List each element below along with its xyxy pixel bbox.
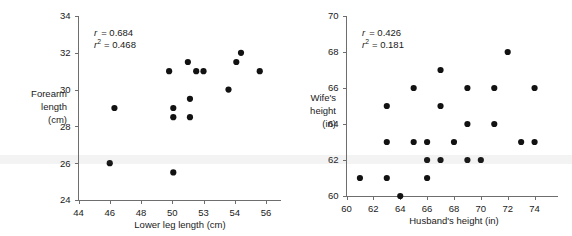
right-xlabel: Husband's height (in) — [409, 215, 498, 226]
left-x-tick-labels: 44464850535456 — [73, 207, 271, 218]
right-ytick-label: 60 — [328, 190, 339, 201]
panel-wife-vs-husband-height: 606264666870 6062646668707274 r= 0.426 r… — [286, 0, 572, 236]
data-point — [531, 139, 537, 145]
left-r-annotation: r= 0.684 — [94, 27, 133, 38]
data-point — [424, 139, 430, 145]
right-ylabel-line-3: (in) — [322, 118, 336, 129]
left-ylabel-line-2: length — [41, 101, 67, 112]
right-r2-annotation: r2= 0.181 — [362, 38, 404, 50]
data-point — [384, 175, 390, 181]
data-point — [111, 105, 117, 111]
data-point — [200, 68, 206, 74]
right-xtick-label: 62 — [368, 203, 379, 214]
right-ytick-label: 68 — [328, 46, 339, 57]
left-xtick-label: 44 — [73, 207, 84, 218]
right-ytick-label: 62 — [328, 154, 339, 165]
left-xlabel: Lower leg length (cm) — [134, 219, 225, 230]
data-point — [238, 50, 244, 56]
left-ylabel-line-1: Forearm — [31, 88, 67, 99]
data-point — [411, 139, 417, 145]
left-ytick-label: 24 — [60, 194, 71, 205]
left-xtick-label: 54 — [229, 207, 240, 218]
left-xtick-label: 53 — [198, 207, 209, 218]
data-point — [464, 121, 470, 127]
left-xtick-label: 56 — [261, 207, 272, 218]
left-ytick-label: 34 — [60, 10, 71, 21]
data-point — [424, 157, 430, 163]
data-point — [170, 105, 176, 111]
right-xtick-label: 74 — [529, 203, 540, 214]
left-xtick-label: 46 — [104, 207, 115, 218]
data-point — [424, 175, 430, 181]
data-point — [531, 85, 537, 91]
data-point — [464, 157, 470, 163]
data-point — [397, 193, 403, 199]
scatterplot-figure: 242628303234 44464850535456 r= 0.684 r2=… — [0, 0, 572, 236]
data-point — [170, 114, 176, 120]
right-ylabel-line-1: Wife's — [310, 92, 336, 103]
data-point — [505, 49, 511, 55]
right-xtick-label: 66 — [422, 203, 433, 214]
right-ylabel-line-2: height — [310, 105, 336, 116]
data-point — [185, 59, 191, 65]
data-point — [518, 139, 524, 145]
right-data-points — [357, 49, 538, 199]
data-point — [233, 59, 239, 65]
data-point — [166, 68, 172, 74]
left-r2-annotation: r2= 0.468 — [94, 38, 136, 50]
data-point — [464, 85, 470, 91]
right-plot-svg: 606264666870 6062646668707274 r= 0.426 r… — [286, 0, 572, 236]
data-point — [107, 160, 113, 166]
data-point — [437, 67, 443, 73]
data-point — [437, 103, 443, 109]
data-point — [170, 169, 176, 175]
right-xtick-label: 60 — [341, 203, 352, 214]
right-x-tick-labels: 6062646668707274 — [341, 203, 540, 214]
data-point — [193, 68, 199, 74]
data-point — [491, 85, 497, 91]
right-r-annotation: r= 0.426 — [362, 27, 401, 38]
right-xtick-label: 68 — [449, 203, 460, 214]
data-point — [478, 157, 484, 163]
data-point — [411, 85, 417, 91]
data-point — [225, 87, 231, 93]
data-point — [384, 139, 390, 145]
data-point — [187, 96, 193, 102]
left-xtick-label: 50 — [167, 207, 178, 218]
right-xtick-label: 70 — [476, 203, 487, 214]
right-xtick-label: 72 — [502, 203, 513, 214]
right-ytick-label: 70 — [328, 10, 339, 21]
data-point — [491, 121, 497, 127]
data-point — [187, 114, 193, 120]
right-xtick-label: 64 — [395, 203, 406, 214]
left-data-points — [107, 50, 263, 176]
panel-forearm-vs-lowerleg: 242628303234 44464850535456 r= 0.684 r2=… — [0, 0, 286, 236]
left-ytick-label: 26 — [60, 158, 71, 169]
left-plot-svg: 242628303234 44464850535456 r= 0.684 r2=… — [0, 0, 286, 236]
left-y-ticks — [75, 17, 79, 201]
left-xtick-label: 48 — [136, 207, 147, 218]
left-ylabel-line-3: (cm) — [48, 114, 67, 125]
data-point — [384, 103, 390, 109]
data-point — [357, 175, 363, 181]
right-y-ticks — [343, 17, 347, 197]
data-point — [437, 157, 443, 163]
left-ytick-label: 32 — [60, 47, 71, 58]
data-point — [451, 139, 457, 145]
data-point — [257, 68, 263, 74]
